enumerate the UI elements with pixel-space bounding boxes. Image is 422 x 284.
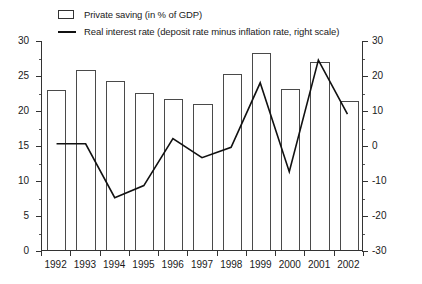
y-right-label: -20 <box>372 211 400 221</box>
y-right-label: 10 <box>372 106 400 116</box>
x-tick <box>363 251 364 256</box>
x-tick <box>129 251 130 256</box>
chart-legend: Private saving (in % of GDP) Real intere… <box>58 6 388 40</box>
x-tick <box>158 251 159 256</box>
legend-label-private-saving: Private saving (in % of GDP) <box>84 9 202 20</box>
x-tick <box>217 251 218 256</box>
y-right-label: 0 <box>372 141 400 151</box>
x-tick <box>41 251 42 256</box>
y-left-label: 20 <box>5 106 29 116</box>
line-swatch-icon <box>58 31 84 33</box>
y-left-label: 5 <box>5 211 29 221</box>
real-interest-rate-line <box>57 60 348 198</box>
x-tick <box>304 251 305 256</box>
y-left-label: 10 <box>5 176 29 186</box>
x-tick <box>246 251 247 256</box>
chart-container: Private saving (in % of GDP) Real intere… <box>0 0 422 284</box>
legend-item-real-interest-rate: Real interest rate (deposit rate minus i… <box>58 23 388 40</box>
line-layer <box>42 41 362 250</box>
x-tick <box>187 251 188 256</box>
x-tick <box>275 251 276 256</box>
legend-label-real-interest-rate: Real interest rate (deposit rate minus i… <box>84 26 339 37</box>
y-right-label: -30 <box>372 246 400 256</box>
x-tick <box>334 251 335 256</box>
legend-item-private-saving: Private saving (in % of GDP) <box>58 6 388 23</box>
y-right-label: 30 <box>372 36 400 46</box>
x-label-2002: 2002 <box>328 260 368 270</box>
y-left-label: 15 <box>5 141 29 151</box>
y-left-label: 30 <box>5 36 29 46</box>
plot-area <box>41 41 363 251</box>
bar-swatch-icon <box>58 10 84 19</box>
y-right-label: 20 <box>372 71 400 81</box>
x-tick <box>100 251 101 256</box>
x-tick <box>70 251 71 256</box>
y-left-label: 0 <box>5 246 29 256</box>
y-left-label: 25 <box>5 71 29 81</box>
y-right-label: -10 <box>372 176 400 186</box>
